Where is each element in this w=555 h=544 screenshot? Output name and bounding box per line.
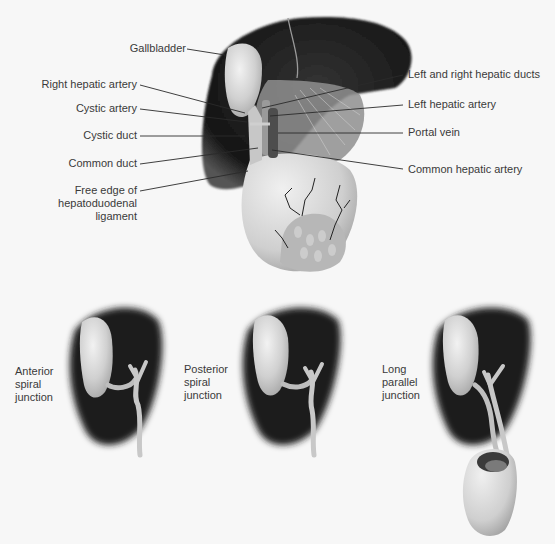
label-line: junction xyxy=(184,389,228,402)
label-cystic-artery: Cystic artery xyxy=(10,102,137,115)
label-common-duct: Common duct xyxy=(10,157,137,170)
variant-long-parallel-illustration xyxy=(433,308,531,536)
label-right-hepatic-artery: Right hepatic artery xyxy=(10,78,137,91)
label-line: junction xyxy=(382,389,420,402)
label-common-hepatic-artery: Common hepatic artery xyxy=(408,163,522,176)
label-left-hepatic-artery: Left hepatic artery xyxy=(408,98,496,111)
label-line: Long xyxy=(382,363,420,376)
anatomy-figure: Gallbladder Right hepatic artery Cystic … xyxy=(0,0,555,544)
label-line: Posterior xyxy=(184,363,228,376)
label-line: spiral xyxy=(15,378,54,391)
label-line: hepatoduodenal xyxy=(10,197,137,210)
label-line: Free edge of xyxy=(10,184,137,197)
label-line: ligament xyxy=(10,210,137,223)
label-line: junction xyxy=(15,391,54,404)
label-posterior-spiral-junction: Posterior spiral junction xyxy=(184,363,228,402)
label-long-parallel-junction: Long parallel junction xyxy=(382,363,420,402)
label-left-right-hepatic-ducts: Left and right hepatic ducts xyxy=(408,68,540,81)
variant-anterior-illustration xyxy=(70,308,163,455)
label-anterior-spiral-junction: Anterior spiral junction xyxy=(15,365,54,404)
label-free-edge-hepatoduodenal-ligament: Free edge of hepatoduodenal ligament xyxy=(10,184,137,223)
label-gallbladder: Gallbladder xyxy=(100,42,186,55)
label-line: spiral xyxy=(184,376,228,389)
label-line: parallel xyxy=(382,376,420,389)
label-line: Anterior xyxy=(15,365,54,378)
variant-posterior-illustration xyxy=(243,308,341,455)
label-portal-vein: Portal vein xyxy=(408,126,460,139)
label-cystic-duct: Cystic duct xyxy=(10,129,137,142)
main-liver-illustration xyxy=(202,17,412,272)
